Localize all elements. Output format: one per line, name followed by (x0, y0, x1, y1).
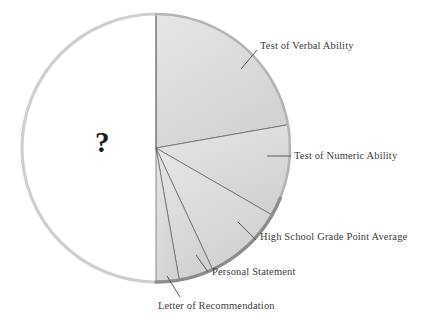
slice-label-personal-statement: Personal Statement (212, 266, 295, 277)
unknown-question-mark: ? (95, 128, 110, 157)
pie-chart-figure: Test of Verbal Ability Test of Numeric A… (0, 0, 421, 320)
slice-label-gpa: High School Grade Point Average (260, 231, 407, 242)
pie-slice[interactable] (22, 14, 156, 282)
slice-label-recommendation: Letter of Recommendation (158, 300, 275, 311)
unknown-slice[interactable] (22, 14, 156, 282)
slice-label-verbal: Test of Verbal Ability (260, 40, 354, 51)
slice-label-numeric: Test of Numeric Ability (294, 150, 397, 161)
